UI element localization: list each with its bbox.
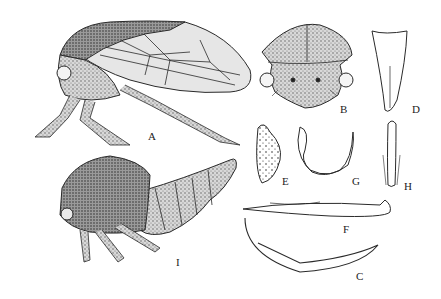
figure-d-plate — [372, 31, 407, 111]
label-h: H — [404, 180, 412, 192]
label-g: G — [352, 175, 360, 187]
label-c: C — [356, 270, 363, 282]
label-i: I — [176, 256, 180, 268]
figure-h-process — [383, 121, 400, 187]
figure-c-ovipositor — [245, 218, 378, 272]
figure-b-head — [260, 24, 353, 108]
label-f: F — [343, 223, 349, 235]
figure-a-adult — [35, 21, 251, 145]
label-e: E — [282, 175, 289, 187]
figure-e-plate — [257, 125, 281, 183]
illustration-plate: A B D E G H F C I — [0, 0, 441, 299]
figure-g-style — [298, 127, 353, 175]
figure-i-nymph — [60, 156, 236, 262]
label-a: A — [148, 130, 156, 142]
figure-f-style — [243, 200, 390, 217]
label-b: B — [340, 103, 347, 115]
label-d: D — [412, 103, 420, 115]
